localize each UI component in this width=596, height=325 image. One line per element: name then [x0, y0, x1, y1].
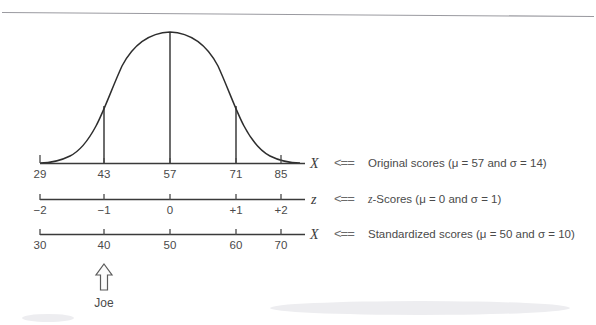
axis-original-letter: X [309, 156, 319, 171]
axis-original-ticklabel-2: 57 [164, 168, 177, 180]
axis-standardized-arrow-icon: <== [334, 226, 354, 241]
figure-root: 29 43 57 71 85 X <== Original scores (μ … [0, 0, 596, 325]
axis-z-ticklabel-2: 0 [167, 204, 173, 216]
axis-standardized-ticklabel-0: 30 [34, 239, 47, 251]
axis-original-ticklabel-1: 43 [98, 168, 111, 180]
axis-original-arrow-icon: <== [334, 155, 354, 170]
axis-z-annotation-rest: -Scores (μ = 0 and σ = 1) [372, 193, 501, 205]
scan-smudge [22, 314, 74, 322]
axis-z-ticklabel-4: +2 [274, 204, 287, 216]
axis-z-ticklabel-0: −2 [33, 204, 46, 216]
axis-standardized-annotation: Standardized scores (μ = 50 and σ = 10) [368, 228, 575, 240]
axis-z-letter: z [310, 192, 317, 207]
axis-z-annotation: z-Scores (μ = 0 and σ = 1) [367, 193, 501, 205]
axis-z-ticklabel-3: +1 [229, 204, 242, 216]
axis-standardized-letter: X [309, 227, 319, 242]
axis-original-annotation: Original scores (μ = 57 and σ = 14) [368, 157, 547, 169]
scan-shadow [270, 301, 570, 315]
distribution-figure: 29 43 57 71 85 X <== Original scores (μ … [0, 0, 596, 325]
axis-original-ticklabel-4: 85 [275, 168, 288, 180]
axis-z-ticklabel-1: −1 [97, 204, 110, 216]
axis-z-arrow-icon: <== [334, 191, 354, 206]
axis-standardized-ticklabel-4: 70 [275, 239, 288, 251]
joe-callout-label: Joe [94, 296, 114, 310]
axis-standardized-ticklabel-1: 40 [98, 239, 111, 251]
axis-standardized-ticklabel-3: 60 [230, 239, 243, 251]
axis-original-ticklabel-0: 29 [34, 168, 47, 180]
axis-standardized-ticklabel-2: 50 [164, 239, 177, 251]
axis-original-ticklabel-3: 71 [230, 168, 243, 180]
